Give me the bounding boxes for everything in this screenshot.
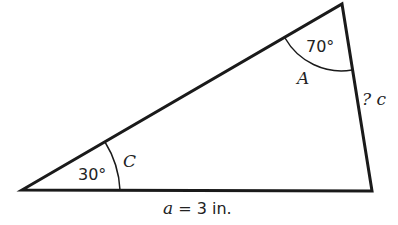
- side-a-var: a: [163, 198, 173, 218]
- side-a-value: = 3 in.: [173, 199, 232, 218]
- side-c-label: ? c: [362, 89, 387, 109]
- angle-c-arc: [105, 142, 120, 190]
- side-a-label: a = 3 in.: [163, 198, 232, 218]
- angle-a-value: 70°: [306, 37, 334, 56]
- angle-c-value: 30°: [78, 165, 106, 184]
- angle-c-label: C: [123, 151, 136, 171]
- triangle: [22, 4, 372, 191]
- angle-a-label: A: [295, 68, 309, 88]
- triangle-diagram: 70° A ? c 30° C a = 3 in.: [0, 0, 398, 225]
